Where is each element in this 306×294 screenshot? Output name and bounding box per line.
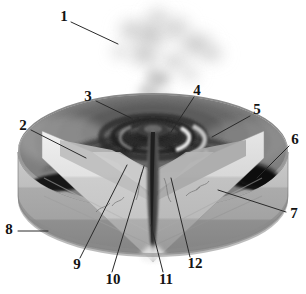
callout-number-11: 11 [159, 271, 173, 287]
callout-number-10: 10 [106, 271, 121, 287]
volcano-diagram-figure: 1 2 3 4 5 6 7 8 9 10 11 12 [0, 0, 306, 294]
callout-number-9: 9 [73, 256, 81, 272]
volcano-cutaway-illustration: 1 2 3 4 5 6 7 8 9 10 11 12 [0, 0, 306, 294]
callout-number-2: 2 [19, 117, 27, 133]
callout-number-12: 12 [188, 255, 203, 271]
callout-number-3: 3 [84, 88, 92, 104]
callout-number-8: 8 [5, 221, 13, 237]
volcano-body [16, 93, 290, 264]
callout-number-5: 5 [253, 101, 261, 117]
callout-number-4: 4 [193, 82, 201, 98]
leader-line-1 [71, 22, 118, 44]
callout-number-6: 6 [291, 131, 299, 147]
callout-number-7: 7 [290, 205, 298, 221]
callout-number-1: 1 [60, 8, 68, 24]
